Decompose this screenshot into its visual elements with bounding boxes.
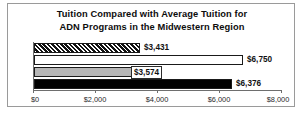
chart-title: Tuition Compared with Average Tuition fo… xyxy=(8,8,296,34)
bar-series-3[interactable] xyxy=(34,67,145,77)
bar-series-4[interactable] xyxy=(34,79,232,89)
bar-series-2[interactable] xyxy=(34,55,243,65)
x-tick-mark-0 xyxy=(33,90,34,93)
plot-area: $3,431 $6,750 $3,574 $6,376 xyxy=(33,42,281,90)
x-tick-mark-4000 xyxy=(157,90,158,93)
x-tick-mark-6000 xyxy=(219,90,220,93)
chart-title-line-1: Tuition Compared with Average Tuition fo… xyxy=(8,8,296,21)
x-tick-mark-8000 xyxy=(281,90,282,93)
bar-label-series-4: $6,376 xyxy=(235,77,262,91)
x-tick-label-8000: $8,000 xyxy=(267,95,290,104)
x-tick-label-4000: $4,000 xyxy=(146,95,169,104)
chart-title-line-2: ADN Programs in the Midwestern Region xyxy=(8,21,296,34)
bar-label-series-3: $3,574 xyxy=(131,66,162,79)
x-tick-label-2000: $2,000 xyxy=(84,95,107,104)
bar-label-series-1: $3,431 xyxy=(143,41,170,55)
chart-frame: Tuition Compared with Average Tuition fo… xyxy=(7,3,295,107)
x-tick-label-0: $0 xyxy=(31,95,39,104)
bar-series-1[interactable] xyxy=(34,43,140,53)
bar-label-series-2: $6,750 xyxy=(246,53,273,67)
x-tick-mark-2000 xyxy=(95,90,96,93)
x-tick-label-6000: $6,000 xyxy=(208,95,231,104)
